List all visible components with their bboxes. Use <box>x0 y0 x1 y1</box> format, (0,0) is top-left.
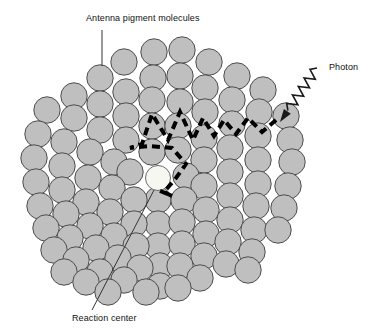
antenna-pigment-molecule <box>49 177 75 203</box>
antenna-pigment-molecule <box>169 37 195 63</box>
antenna-pigment-molecule <box>61 105 87 131</box>
antenna-pigment-molecule <box>245 123 271 149</box>
antenna-pigment-molecule <box>192 75 218 101</box>
antenna-pigment-molecule <box>219 87 245 113</box>
antenna-pigment-molecule <box>113 79 139 105</box>
antenna-pigment-molecule <box>224 63 250 89</box>
antenna-pigment-molecule <box>245 147 271 173</box>
antenna-pigment-molecule <box>217 183 243 209</box>
antenna-pigment-molecule <box>139 87 165 113</box>
photosystem-diagram: Antenna pigment molecules Photon Reactio… <box>0 0 377 335</box>
diagram-canvas <box>0 0 377 335</box>
antenna-pigment-molecule <box>193 197 219 223</box>
antenna-pigment-molecule <box>95 279 121 305</box>
antenna-pigment-molecule <box>75 165 101 191</box>
antenna-pigment-molecule <box>51 129 77 155</box>
antenna-pigment-molecule <box>87 65 113 91</box>
antenna-pigment-molecule <box>265 217 291 243</box>
antenna-pigment-molecule <box>111 49 137 75</box>
antenna-pigment-molecule <box>243 193 269 219</box>
antenna-pigment-molecule <box>133 279 159 305</box>
antenna-pigment-molecule <box>77 139 103 165</box>
antenna-pigment-molecule <box>217 135 243 161</box>
label-photon: Photon <box>329 62 358 73</box>
antenna-pigment-molecule <box>196 49 222 75</box>
antenna-pigment-molecule <box>192 99 218 125</box>
antenna-pigment-molecule <box>167 63 193 89</box>
antenna-pigment-molecule <box>121 187 147 213</box>
antenna-pigment-molecule <box>165 275 191 301</box>
antenna-pigment-molecule <box>23 169 49 195</box>
antenna-pigment-molecule <box>217 159 243 185</box>
antenna-pigment-molecule <box>25 121 51 147</box>
antenna-pigment-molecule <box>113 103 139 129</box>
antenna-pigment-molecule <box>235 257 261 283</box>
antenna-pigment-molecule <box>49 153 75 179</box>
antenna-pigment-molecule <box>246 99 272 125</box>
antenna-pigment-molecule <box>279 149 305 175</box>
label-antenna-pigment-molecules: Antenna pigment molecules <box>86 13 200 24</box>
label-reaction-center: Reaction center <box>72 313 137 324</box>
antenna-pigment-molecule <box>21 145 47 171</box>
antenna-pigment-molecule <box>87 91 113 117</box>
antenna-pigment-molecule <box>141 39 167 65</box>
antenna-pigment-molecule <box>34 97 60 123</box>
